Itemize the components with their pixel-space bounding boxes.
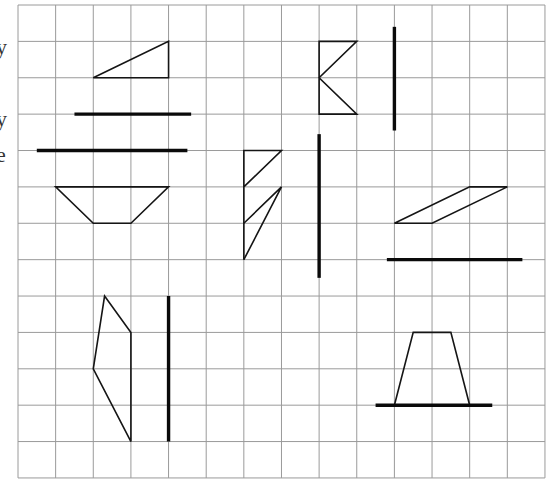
trapezoid-inverted	[56, 187, 169, 223]
symmetry-axes	[37, 27, 523, 442]
grid-diagram	[0, 0, 557, 501]
parallelogram	[394, 187, 507, 223]
